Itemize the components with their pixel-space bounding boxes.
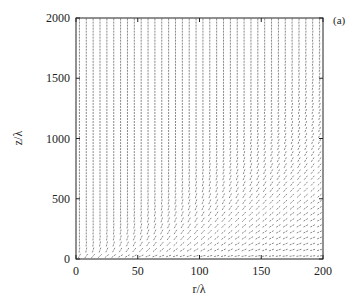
plot-frame: [76, 18, 323, 259]
y-tick-label: 1000: [46, 132, 70, 146]
y-tick-label: 500: [52, 192, 70, 206]
panel-label: (a): [333, 14, 346, 27]
x-tick-label: 200: [314, 264, 332, 278]
x-tick-label: 100: [191, 264, 209, 278]
x-tick-label: 0: [73, 264, 79, 278]
x-tick-label: 150: [252, 264, 270, 278]
y-axis-label: z/λ: [11, 131, 25, 146]
x-tick-label: 50: [132, 264, 144, 278]
y-tick-label: 1500: [46, 71, 70, 85]
x-axis-ticks: 050100150200: [73, 18, 332, 278]
y-axis-ticks: 0500100015002000: [46, 11, 323, 266]
y-tick-label: 2000: [46, 11, 70, 25]
vector-field-chart: 050100150200 0500100015002000 r/λ z/λ (a…: [0, 0, 363, 305]
vector-field-arrows: [78, 18, 322, 258]
y-tick-label: 0: [64, 252, 70, 266]
x-axis-label: r/λ: [192, 282, 205, 296]
